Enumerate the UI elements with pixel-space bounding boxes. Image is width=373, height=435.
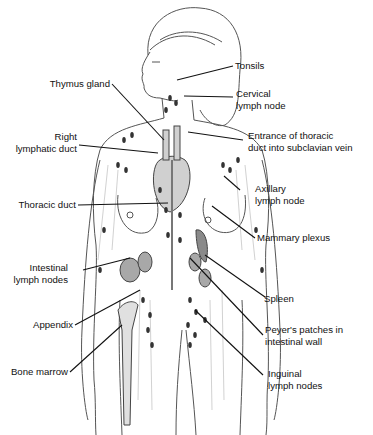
label-inguinal-lymph-nodes: Inguinal lymph nodes [268,368,322,391]
label-entrance-thoracic-duct: Entrance of thoracic duct into subclavia… [248,130,353,153]
label-bone-marrow: Bone marrow [2,366,68,378]
label-mammary-plexus: Mammary plexus [257,232,330,244]
label-cervical-lymph-node: Cervical lymph node [236,88,286,111]
label-right-lymphatic-duct: Right lymphatic duct [10,131,77,154]
lymphatic-system-diagram: Tonsils Thymus gland Cervical lymph node… [0,0,373,435]
label-thoracic-duct: Thoracic duct [5,199,76,211]
label-intestinal-lymph-nodes: Intestinal lymph nodes [5,262,68,285]
label-peyers-patches: Peyer's patches in intestinal wall [265,324,343,347]
label-thymus-gland: Thymus gland [40,78,110,90]
label-spleen: Spleen [264,293,294,305]
label-appendix: Appendix [5,319,73,331]
label-tonsils: Tonsils [235,60,264,72]
label-axillary-lymph-node: Axillary lymph node [255,183,305,206]
